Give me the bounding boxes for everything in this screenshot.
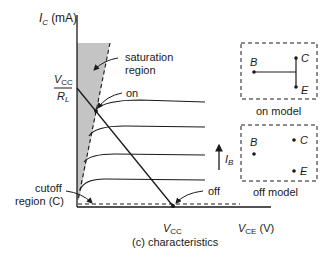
off-model-e-label: E [300, 165, 308, 177]
y-intercept-denominator: RL [57, 90, 69, 104]
y-axis-label: IC(mA) [39, 11, 77, 27]
transistor-characteristics-diagram: IC(mA) VCE(V) VCC RL VCC saturation regi… [0, 0, 335, 263]
characteristic-curve [80, 179, 205, 190]
on-model-b-label: B [250, 56, 257, 68]
off-point [171, 204, 175, 208]
figure-caption: (c) characteristics [132, 236, 219, 248]
on-model-b-node [252, 70, 256, 74]
load-line [77, 88, 173, 206]
on-point [94, 109, 98, 113]
on-model-c-node [294, 56, 298, 60]
on-model-e-label: E [301, 84, 309, 96]
off-arrow [176, 191, 203, 203]
x-axis-label: VCE(V) [238, 222, 274, 236]
characteristic-curve [89, 126, 205, 136]
characteristic-curve [84, 154, 205, 162]
off-model-title: off model [253, 186, 298, 198]
off-model-b-label: B [250, 136, 257, 148]
on-model-e-node [294, 85, 298, 89]
cutoff-label-line1: cutoff [35, 182, 63, 194]
characteristic-curve [95, 100, 205, 110]
off-model-c-label: C [300, 134, 308, 146]
on-model-c-label: C [301, 52, 309, 64]
cutoff-label-line2: region (C) [15, 195, 64, 207]
off-label: off [208, 185, 221, 197]
y-intercept-numerator: VCC [54, 73, 73, 87]
x-intercept-label: VCC [163, 222, 182, 236]
saturation-label-line2: region [125, 64, 156, 76]
saturation-label-line1: saturation [125, 51, 173, 63]
on-model-title: on model [256, 105, 301, 117]
off-model-e-node [292, 169, 296, 173]
ib-label: IB [225, 153, 234, 167]
off-model-b-node [252, 152, 256, 156]
off-model-c-node [292, 138, 296, 142]
on-label: on [126, 87, 138, 99]
